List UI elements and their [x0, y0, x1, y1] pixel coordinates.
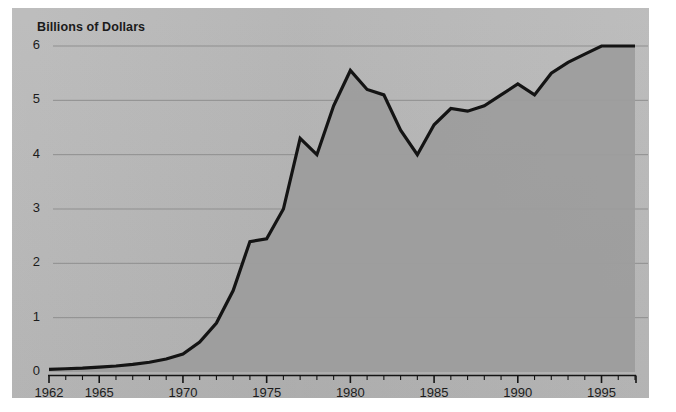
- x-tick-label-1990: 1990: [488, 385, 548, 400]
- y-tick-label-1: 1: [18, 309, 40, 324]
- chart-figure: Billions of Dollars 0123456 196219651970…: [0, 0, 676, 412]
- x-tick-label-1965: 1965: [69, 385, 129, 400]
- x-tick-label-1985: 1985: [404, 385, 464, 400]
- y-tick-label-4: 4: [18, 146, 40, 161]
- x-tick-label-1995: 1995: [572, 385, 632, 400]
- x-tick-label-1980: 1980: [320, 385, 380, 400]
- y-tick-label-0: 0: [18, 363, 40, 378]
- y-tick-label-6: 6: [18, 37, 40, 52]
- y-tick-label-2: 2: [18, 254, 40, 269]
- x-tick-label-1975: 1975: [237, 385, 297, 400]
- y-tick-label-3: 3: [18, 200, 40, 215]
- chart-plot-area: [0, 0, 676, 412]
- x-tick-label-1970: 1970: [153, 385, 213, 400]
- x-ticks-group: [49, 376, 636, 384]
- y-tick-label-5: 5: [18, 91, 40, 106]
